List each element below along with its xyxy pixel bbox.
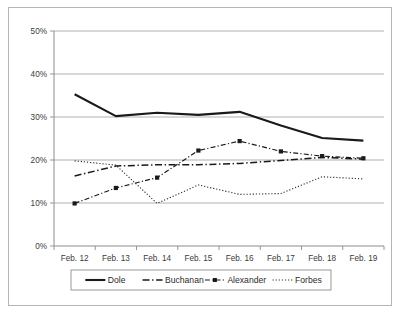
line-chart: 0%10%20%30%40%50%Feb. 12Feb. 13Feb. 14Fe… [9,8,393,307]
legend-label-alexander: Alexander [227,275,266,285]
legend-marker-alexander [213,278,217,282]
data-marker-alexander [238,139,242,143]
x-axis-tick-label: Feb. 18 [308,254,336,263]
x-axis-tick-label: Feb. 17 [267,254,295,263]
data-marker-alexander [114,186,118,190]
data-marker-alexander [279,149,283,153]
y-axis-tick-label: 40% [31,70,47,79]
series-line-alexander [75,141,364,203]
series-line-forbes [75,161,364,204]
legend-label-forbes: Forbes [295,275,322,285]
data-marker-alexander [155,176,159,180]
x-axis-tick-label: Feb. 13 [102,254,130,263]
series-group [73,94,366,205]
data-marker-alexander [361,156,365,160]
y-axis-tick-label: 10% [31,199,47,208]
y-axis-tick-label: 20% [31,156,47,165]
y-axis-tick-label: 0% [35,242,47,251]
y-axis-tick-label: 50% [31,27,47,36]
x-axis-tick-label: Feb. 16 [226,254,254,263]
legend-label-buchanan: Buchanan [165,275,204,285]
data-marker-alexander [196,148,200,152]
x-axis-tick-label: Feb. 12 [61,254,89,263]
x-axis-tick-label: Feb. 14 [143,254,171,263]
legend-label-dole: Dole [108,275,126,285]
x-axis-tick-label: Feb. 19 [349,254,377,263]
chart-legend: DoleBuchananAlexanderForbes [71,270,331,290]
chart-figure-frame: 0%10%20%30%40%50%Feb. 12Feb. 13Feb. 14Fe… [8,7,392,306]
data-marker-alexander [73,201,77,205]
x-axis-tick-label: Feb. 15 [184,254,212,263]
data-marker-alexander [320,154,324,158]
x-axis-group: Feb. 12Feb. 13Feb. 14Feb. 15Feb. 16Feb. … [54,246,384,263]
y-axis-tick-label: 30% [31,113,47,122]
